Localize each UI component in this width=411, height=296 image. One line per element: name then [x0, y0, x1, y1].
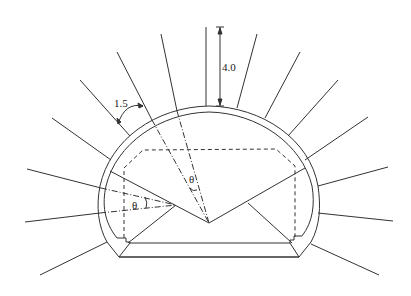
dimension-arrow-top: [218, 28, 222, 34]
rock-bolts: [25, 27, 393, 275]
right-tri-line: [248, 203, 292, 243]
outer-lining: [98, 106, 319, 257]
angle-label-left: θ: [132, 199, 137, 211]
right-footing: [290, 236, 302, 243]
angle-construction-lines: [100, 111, 209, 223]
tunnel-diagram: 4.0 1.5 θ θ: [0, 0, 411, 296]
left-footing: [117, 238, 130, 243]
spacing-arrow-right: [138, 103, 143, 108]
clearance-profile: [124, 149, 295, 238]
diagram-svg: 4.0 1.5 θ θ: [0, 0, 411, 296]
angle-label-center: θ: [189, 173, 194, 185]
dimension-label: 4.0: [222, 61, 236, 73]
spacing-label: 1.5: [114, 97, 128, 109]
right-bottom-tri: [290, 243, 299, 257]
dimension-arrow-bottom: [218, 99, 222, 105]
left-bottom-tri: [119, 243, 130, 257]
v-line-main: [110, 168, 305, 223]
